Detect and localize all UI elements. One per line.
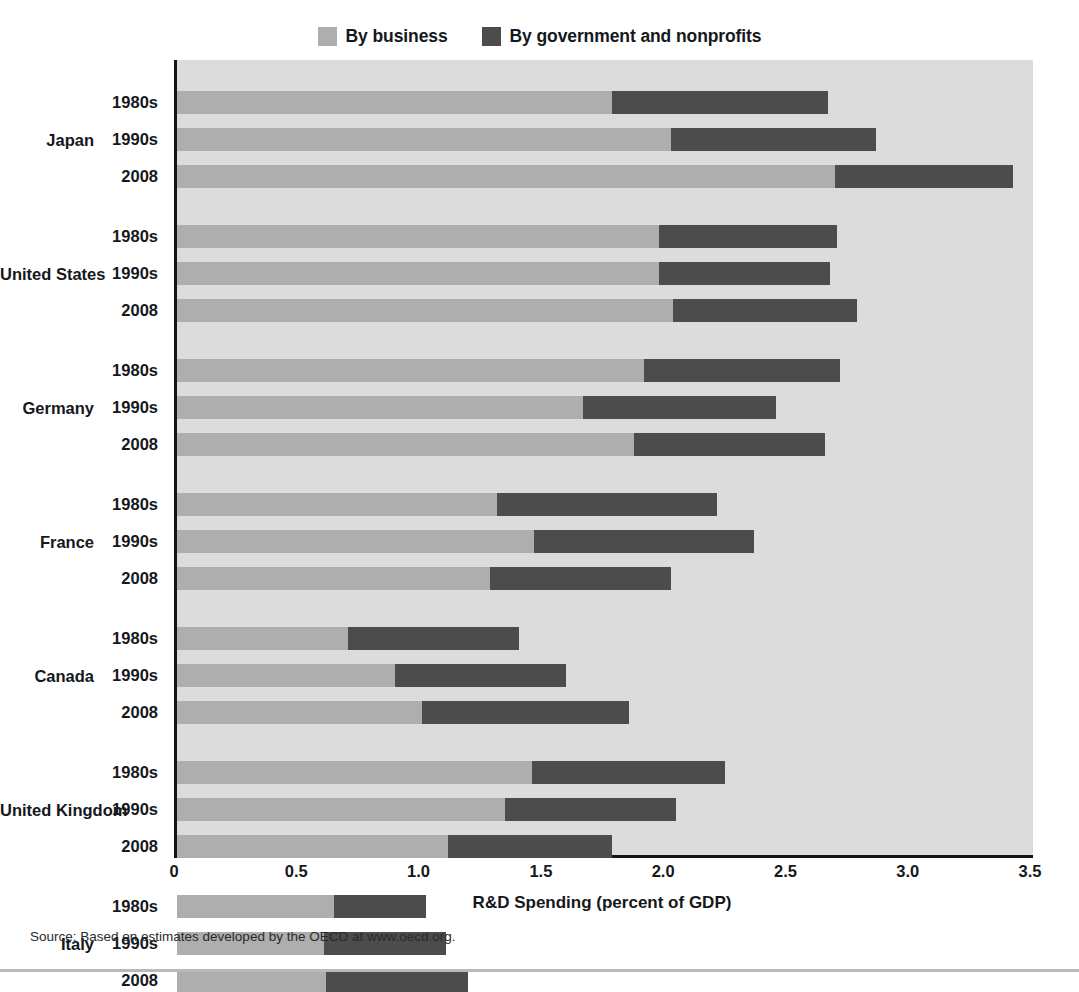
plot-area (174, 60, 1033, 858)
y-axis-period-label: 1990s (112, 128, 158, 151)
bar-segment-government (612, 91, 827, 114)
bar-segment-government (395, 664, 566, 687)
bar-row (177, 627, 519, 650)
x-axis-tick-label: 2.5 (774, 862, 797, 881)
legend-label: By government and nonprofits (510, 26, 762, 47)
y-axis-period-label: 2008 (121, 701, 158, 724)
y-axis-country-label: Canada (0, 666, 94, 686)
bar-segment-government (835, 165, 1014, 188)
bar-row (177, 359, 840, 382)
bar-segment-business (177, 761, 532, 784)
bar-segment-business (177, 493, 497, 516)
y-axis-period-label: 2008 (121, 835, 158, 858)
bar-segment-government (659, 225, 838, 248)
bar-segment-government (659, 262, 830, 285)
bar-segment-business (177, 262, 659, 285)
bar-segment-business (177, 91, 612, 114)
y-axis-country-label: Germany (0, 398, 94, 418)
bar-segment-government (490, 567, 671, 590)
y-axis-period-label: 1980s (112, 91, 158, 114)
bar-row (177, 567, 671, 590)
bar-segment-government (673, 299, 856, 322)
y-axis-period-label: 1980s (112, 895, 158, 918)
source-note: Source: Based on estimates developed by … (30, 929, 455, 944)
bar-segment-government (671, 128, 876, 151)
y-axis-period-label: 1980s (112, 359, 158, 382)
y-axis-period-label: 2008 (121, 433, 158, 456)
bar-segment-business (177, 225, 659, 248)
bar-row (177, 433, 825, 456)
legend-swatch-icon (318, 27, 337, 46)
x-axis-title: R&D Spending (percent of GDP) (174, 893, 1030, 913)
y-axis-period-label: 2008 (121, 299, 158, 322)
x-axis-tick-label: 1.0 (407, 862, 430, 881)
bar-row (177, 225, 837, 248)
bar-segment-government (532, 761, 725, 784)
bar-segment-government (644, 359, 840, 382)
bar-segment-government (534, 530, 754, 553)
x-axis-tick-label: 3.5 (1019, 862, 1042, 881)
bar-row (177, 262, 830, 285)
y-axis-period-label: 1980s (112, 225, 158, 248)
bar-segment-business (177, 433, 634, 456)
y-axis-period-label: 2008 (121, 567, 158, 590)
bar-segment-business (177, 798, 505, 821)
bar-segment-government (497, 493, 717, 516)
legend-swatch-icon (482, 27, 501, 46)
x-axis-tick-label: 1.5 (529, 862, 552, 881)
bar-row (177, 165, 1013, 188)
x-axis-tick-label: 3.0 (896, 862, 919, 881)
bar-row (177, 91, 828, 114)
y-axis-period-label: 1980s (112, 627, 158, 650)
bar-segment-business (177, 567, 490, 590)
bar-segment-business (177, 359, 644, 382)
bar-segment-business (177, 701, 422, 724)
bar-row (177, 299, 857, 322)
x-axis-tick-label: 2.0 (652, 862, 675, 881)
bar-segment-government (326, 969, 468, 992)
bar-row (177, 396, 776, 419)
legend-entry: By business (318, 26, 448, 47)
bar-segment-business (177, 396, 583, 419)
bar-row (177, 798, 676, 821)
y-axis-labels: 1980s1990s2008Japan1980s1990s2008United … (0, 60, 166, 855)
bar-row (177, 761, 725, 784)
bar-segment-government (448, 835, 612, 858)
bar-segment-business (177, 165, 835, 188)
y-axis-country-label: Japan (0, 130, 94, 150)
x-axis-ticks: 00.51.01.52.02.53.03.5 (174, 862, 1030, 888)
bar-row (177, 969, 468, 992)
bar-segment-business (177, 664, 395, 687)
bars-container (177, 60, 1033, 855)
bar-segment-government (583, 396, 776, 419)
bar-segment-government (422, 701, 630, 724)
bar-row (177, 128, 876, 151)
bottom-divider (0, 969, 1079, 972)
y-axis-period-label: 1990s (112, 396, 158, 419)
y-axis-country-label: United States (0, 264, 94, 284)
y-axis-period-label: 2008 (121, 165, 158, 188)
y-axis-period-label: 2008 (121, 969, 158, 992)
bar-row (177, 835, 612, 858)
bar-segment-business (177, 627, 348, 650)
bar-row (177, 701, 629, 724)
x-axis-tick-label: 0.5 (285, 862, 308, 881)
y-axis-country-label: United Kingdom (0, 800, 94, 820)
bar-segment-government (505, 798, 676, 821)
y-axis-period-label: 1990s (112, 262, 158, 285)
bar-segment-government (348, 627, 519, 650)
x-axis-tick-label: 0 (169, 862, 178, 881)
y-axis-period-label: 1980s (112, 493, 158, 516)
bar-row (177, 664, 566, 687)
bar-segment-business (177, 299, 673, 322)
bar-segment-business (177, 128, 671, 151)
y-axis-period-label: 1980s (112, 761, 158, 784)
y-axis-country-label: France (0, 532, 94, 552)
bar-row (177, 530, 754, 553)
y-axis-period-label: 1990s (112, 530, 158, 553)
bar-row (177, 493, 717, 516)
bar-segment-business (177, 969, 326, 992)
legend-label: By business (346, 26, 448, 47)
bar-segment-business (177, 835, 448, 858)
